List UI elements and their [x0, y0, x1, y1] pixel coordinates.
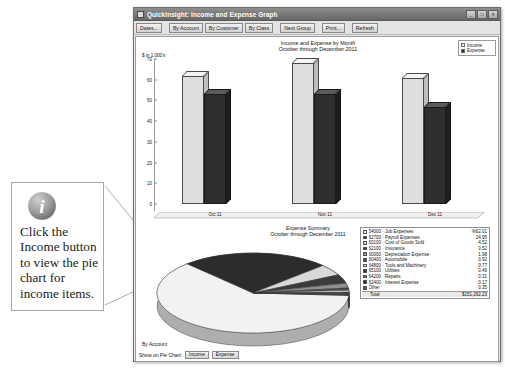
pie-legend-table: 54000 · Job Expenses%62.0162700 · Payrol… — [360, 227, 490, 299]
pie-legend-row[interactable]: 64200 · Repairs0.31 — [362, 274, 488, 280]
pie-total-label: Total — [363, 292, 462, 297]
pie-legend-label: 65100 · Utilities — [369, 268, 479, 273]
y-tick-label: 20 — [147, 160, 152, 165]
bar-front — [204, 94, 226, 204]
window-title: QuickInsight: Income and Expense Graph — [147, 11, 278, 18]
bar-side — [336, 89, 341, 204]
toolbar: Dates... By Account By Customer By Class… — [134, 21, 500, 35]
pie-chart[interactable] — [150, 241, 356, 349]
y-tick-label: 50 — [147, 98, 152, 103]
by-customer-button[interactable]: By Customer — [205, 23, 243, 33]
pie-legend-swatch — [363, 280, 367, 284]
pie-legend-value: 0.77 — [478, 263, 487, 268]
x-axis-label: Oct 11 — [208, 212, 221, 217]
pie-legend-swatch — [363, 252, 367, 256]
y-tick-mark — [154, 162, 157, 163]
graph-client-area: Income and Expense by Month October thro… — [135, 36, 499, 362]
close-button[interactable]: ✕ — [488, 10, 498, 19]
bar-front — [314, 94, 336, 204]
pie-chart-svg — [150, 241, 356, 349]
pie-legend-row[interactable]: 60400 · Automobile0.92 — [362, 257, 488, 263]
y-tick-label: 30 — [147, 139, 152, 144]
application-icon — [137, 11, 144, 18]
y-tick-mark — [154, 183, 157, 184]
income-button[interactable]: Income — [185, 351, 209, 360]
bar-income-oct-11[interactable] — [182, 76, 204, 204]
pie-total-row: Total $151,262.23 — [362, 291, 488, 297]
expense-button[interactable]: Expense — [212, 351, 239, 360]
y-tick-mark — [154, 59, 157, 60]
pie-legend-value: 3.52 — [478, 246, 487, 251]
pie-legend-value: 4.52 — [478, 240, 487, 245]
pie-legend-row[interactable]: 60000 · Depreciation Expense1.98 — [362, 251, 488, 257]
maximize-button[interactable]: □ — [477, 10, 487, 19]
pie-legend-label: 62100 · Insurance — [369, 246, 479, 251]
legend-label-income: Income — [467, 43, 482, 48]
title-bar[interactable]: QuickInsight: Income and Expense Graph _… — [134, 8, 500, 21]
bar-expense-nov-11[interactable] — [314, 94, 336, 204]
pie-legend-swatch — [363, 230, 367, 234]
bar-front — [182, 76, 204, 204]
window-controls: _ □ ✕ — [466, 10, 498, 19]
legend-swatch-income — [461, 43, 465, 47]
y-tick-label: 40 — [147, 119, 152, 124]
info-icon-glyph: i — [28, 192, 56, 220]
pie-legend-row[interactable]: 62100 · Insurance3.52 — [362, 246, 488, 252]
pie-legend-row[interactable]: 64800 · Tools and Machinery0.77 — [362, 263, 488, 269]
pie-legend-row[interactable]: 50100 · Cost of Goods Sold4.52 — [362, 240, 488, 246]
y-tick-mark — [154, 79, 157, 80]
pie-legend-label: 62700 · Payroll Expenses — [369, 235, 476, 240]
quickinsight-window: QuickInsight: Income and Expense Graph _… — [133, 7, 501, 362]
pie-total-value: $151,262.23 — [462, 292, 487, 297]
pie-chart-controls: Show on Pie Chart: Income Expense — [139, 351, 239, 360]
y-tick-label: 70 — [147, 57, 152, 62]
pie-legend-rows: 54000 · Job Expenses%62.0162700 · Payrol… — [362, 229, 488, 291]
pie-legend-value: 0.31 — [478, 274, 487, 279]
y-axis-label: $ in 1,000's — [142, 53, 165, 58]
bar-income-dec-11[interactable] — [402, 78, 424, 204]
pie-legend-row[interactable]: Other0.35 — [362, 285, 488, 291]
pie-legend-swatch — [363, 241, 367, 245]
by-account-button[interactable]: By Account — [169, 23, 203, 33]
by-class-button[interactable]: By Class — [245, 23, 273, 33]
legend-item-expense[interactable]: Expense — [461, 48, 493, 54]
bar-side — [446, 102, 451, 204]
pie-legend-label: Other — [369, 285, 479, 290]
bar-expense-oct-11[interactable] — [204, 94, 226, 204]
bar-income-nov-11[interactable] — [292, 63, 314, 204]
pie-legend-swatch — [363, 286, 367, 290]
dates-button[interactable]: Dates... — [136, 23, 162, 33]
pie-legend-row[interactable]: 54000 · Job Expenses%62.01 — [362, 229, 488, 235]
print-button[interactable]: Print... — [322, 23, 345, 33]
pie-legend-swatch — [363, 258, 367, 262]
bar-front — [424, 107, 446, 204]
show-on-pie-label: Show on Pie Chart: — [139, 352, 182, 358]
x-axis-label: Nov 11 — [318, 212, 332, 217]
y-tick-label: 60 — [147, 77, 152, 82]
grouping-label: By Account — [142, 341, 167, 347]
pie-legend-swatch — [363, 275, 367, 279]
pie-legend-label: 62400 · Interest Expense — [369, 280, 479, 285]
bar-chart: Income and Expense by Month October thro… — [136, 37, 499, 223]
bar-chart-subtitle: October through December 2011 — [136, 46, 499, 52]
legend-label-expense: Expense — [467, 48, 485, 53]
pie-legend-swatch — [363, 236, 367, 240]
minimize-button[interactable]: _ — [466, 10, 476, 19]
next-group-button[interactable]: Next Group — [280, 23, 315, 33]
pie-legend-swatch — [363, 264, 367, 268]
bar-chart-legend: Income Expense — [458, 40, 496, 56]
pie-legend-row[interactable]: 62700 · Payroll Expenses24.95 — [362, 235, 488, 241]
instruction-callout: i Click the Income button to view the pi… — [11, 182, 104, 311]
pie-chart-section: Expense Summary October through December… — [136, 223, 499, 362]
pie-legend-label: 54000 · Job Expenses — [369, 229, 472, 234]
bar-expense-dec-11[interactable] — [424, 107, 446, 204]
pie-legend-row[interactable]: 65100 · Utilities0.49 — [362, 268, 488, 274]
info-icon: i — [28, 192, 56, 220]
y-tick-label: 10 — [147, 181, 152, 186]
y-tick-mark — [154, 121, 157, 122]
pie-legend-label: 60000 · Depreciation Expense — [369, 252, 479, 257]
pie-legend-row[interactable]: 62400 · Interest Expense0.17 — [362, 279, 488, 285]
pie-legend-value: 24.95 — [476, 235, 487, 240]
refresh-button[interactable]: Refresh — [352, 23, 378, 33]
chart-base-slab — [154, 205, 484, 212]
